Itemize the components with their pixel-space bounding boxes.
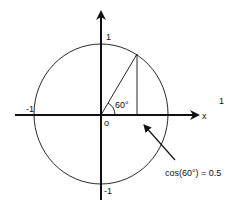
annotation-arrow xyxy=(144,125,175,160)
stray-one-label: 1 xyxy=(219,96,224,106)
unit-circle-diagram: 1 -1 -1 o 60° x 1 cos(60°) = 0.5 xyxy=(0,0,234,210)
angle-arc xyxy=(108,103,115,115)
cos-annotation-label: cos(60°) = 0.5 xyxy=(165,168,221,178)
x-axis-label: x xyxy=(202,111,207,121)
y-top-label: 1 xyxy=(106,32,111,42)
angle-label: 60° xyxy=(115,100,129,110)
x-left-label: -1 xyxy=(26,104,34,114)
y-bottom-label: -1 xyxy=(104,186,112,196)
origin-label: o xyxy=(104,118,109,128)
